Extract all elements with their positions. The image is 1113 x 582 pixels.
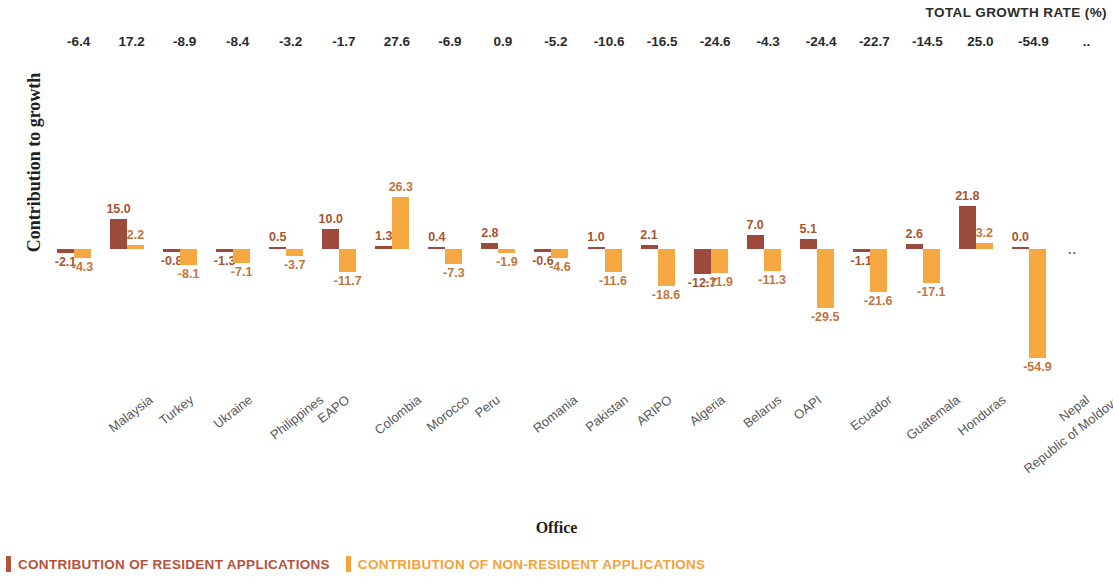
bar-value-label: -11.3: [749, 273, 795, 287]
bar-value-label: -8.1: [166, 267, 212, 281]
bar-non-resident-contribution[interactable]: [658, 249, 675, 286]
bar-resident-contribution[interactable]: [375, 246, 392, 249]
legend-label: CONTRIBUTION OF RESIDENT APPLICATIONS: [18, 557, 330, 572]
bar-value-label: -11.7: [325, 274, 371, 288]
bar-value-label: -29.5: [802, 310, 848, 324]
total-growth-rate-value: -16.5: [636, 34, 689, 49]
bar-group: 15.02.2: [105, 60, 158, 390]
x-tick-label: Ecuador: [847, 392, 894, 434]
bar-resident-contribution[interactable]: [800, 239, 817, 249]
bar-value-label: -4.6: [537, 260, 583, 274]
bar-resident-contribution[interactable]: [322, 229, 339, 249]
legend-swatch-icon: [6, 556, 11, 572]
bar-value-label: 7.0: [732, 218, 778, 232]
bar-non-resident-contribution[interactable]: [392, 197, 409, 249]
bar-non-resident-contribution[interactable]: [74, 249, 91, 258]
total-growth-rate-value: 0.9: [476, 34, 529, 49]
bar-value-label: 15.0: [96, 202, 142, 216]
bar-group: 2.8-1.9: [476, 60, 529, 390]
total-growth-rate-value: -54.9: [1007, 34, 1060, 49]
total-growth-rate-value: -4.3: [742, 34, 795, 49]
bar-resident-contribution[interactable]: [694, 249, 711, 274]
x-tick-label: Guatemala: [904, 392, 963, 443]
bar-value-label: 0.5: [255, 230, 301, 244]
bar-non-resident-contribution[interactable]: [445, 249, 462, 264]
bar-resident-contribution[interactable]: [481, 243, 498, 249]
total-growth-rate-value: -24.4: [795, 34, 848, 49]
x-axis-tick-labels: MalaysiaTurkeyUkrainePhilippinesEAPOColo…: [52, 392, 1113, 512]
bar-resident-contribution[interactable]: [1012, 247, 1029, 250]
bar-value-label: -4.3: [60, 260, 106, 274]
bar-non-resident-contribution[interactable]: [976, 243, 993, 249]
x-tick-label: Algeria: [687, 392, 728, 429]
bar-non-resident-contribution[interactable]: [339, 249, 356, 272]
bar-group: -1.1-21.6: [848, 60, 901, 390]
legend-item[interactable]: CONTRIBUTION OF NON-RESIDENT APPLICATION…: [346, 556, 706, 572]
bar-value-label: -17.1: [908, 285, 954, 299]
bar-group: 2.1-18.6: [636, 60, 689, 390]
bar-value-label: 0.0: [997, 230, 1043, 244]
bar-non-resident-contribution[interactable]: [498, 249, 515, 253]
bar-non-resident-contribution[interactable]: [551, 249, 568, 258]
bar-value-label: 26.3: [378, 180, 424, 194]
x-tick-label: Peru: [472, 392, 503, 421]
bar-group: 0.4-7.3: [423, 60, 476, 390]
bar-non-resident-contribution[interactable]: [711, 249, 728, 273]
total-growth-rate-value: -10.6: [583, 34, 636, 49]
bar-group: ..: [1060, 60, 1113, 390]
bar-non-resident-contribution[interactable]: [286, 249, 303, 256]
bar-resident-contribution[interactable]: [163, 249, 180, 252]
total-growth-rate-header: TOTAL GROWTH RATE (%): [926, 5, 1107, 20]
chart-root: TOTAL GROWTH RATE (%) -6.417.2-8.9-8.4-3…: [0, 0, 1113, 582]
bar-non-resident-contribution[interactable]: [605, 249, 622, 272]
bar-resident-contribution[interactable]: [588, 247, 605, 250]
bar-value-label: -11.9: [696, 275, 742, 289]
bar-non-resident-contribution[interactable]: [817, 249, 834, 308]
bar-value-label: -21.6: [855, 294, 901, 308]
bar-group: -1.3-7.1: [211, 60, 264, 390]
x-tick-label: Ukraine: [210, 392, 255, 431]
bar-value-label: 1.0: [573, 230, 619, 244]
legend-item[interactable]: CONTRIBUTION OF RESIDENT APPLICATIONS: [6, 556, 330, 572]
x-tick-label: Honduras: [955, 392, 1009, 439]
total-growth-rate-value: 27.6: [370, 34, 423, 49]
total-growth-rate-value: 17.2: [105, 34, 158, 49]
y-axis-title: Contribution to growth: [24, 53, 45, 273]
bar-non-resident-contribution[interactable]: [233, 249, 250, 263]
bar-resident-contribution[interactable]: [534, 249, 551, 252]
bar-group: 21.83.2: [954, 60, 1007, 390]
total-growth-rate-value: -5.2: [529, 34, 582, 49]
x-tick-label: Morocco: [423, 392, 472, 435]
bar-resident-contribution[interactable]: [57, 249, 74, 253]
bar-value-label: -7.3: [431, 266, 477, 280]
bar-resident-contribution[interactable]: [216, 249, 233, 252]
bar-resident-contribution[interactable]: [269, 247, 286, 250]
total-growth-rate-value: -6.4: [52, 34, 105, 49]
bar-resident-contribution[interactable]: [641, 245, 658, 249]
bar-group: 10.0-11.7: [317, 60, 370, 390]
total-growth-rate-row: -6.417.2-8.9-8.4-3.2-1.727.6-6.90.9-5.2-…: [52, 34, 1113, 56]
no-data-marker: ..: [1068, 242, 1077, 257]
bar-resident-contribution[interactable]: [428, 247, 445, 250]
bar-group: -0.8-8.1: [158, 60, 211, 390]
x-tick-label: Colombia: [371, 392, 424, 438]
bar-resident-contribution[interactable]: [853, 249, 870, 252]
bar-non-resident-contribution[interactable]: [180, 249, 197, 265]
bar-resident-contribution[interactable]: [747, 235, 764, 249]
bar-value-label: 0.4: [414, 230, 460, 244]
x-tick-label: ARIPO: [634, 392, 675, 429]
total-growth-rate-value: -6.9: [423, 34, 476, 49]
x-tick-label: Malaysia: [105, 392, 155, 435]
bar-non-resident-contribution[interactable]: [870, 249, 887, 292]
bar-resident-contribution[interactable]: [906, 244, 923, 249]
bar-value-label: 2.1: [626, 228, 672, 242]
bar-group: 2.6-17.1: [901, 60, 954, 390]
bar-non-resident-contribution[interactable]: [923, 249, 940, 283]
bar-non-resident-contribution[interactable]: [127, 245, 144, 249]
legend-label: CONTRIBUTION OF NON-RESIDENT APPLICATION…: [358, 557, 706, 572]
x-tick-label: Romania: [530, 392, 580, 436]
x-tick-label: OAPI: [791, 392, 825, 423]
bar-non-resident-contribution[interactable]: [1029, 249, 1046, 358]
legend-swatch-icon: [346, 556, 351, 572]
bar-non-resident-contribution[interactable]: [764, 249, 781, 271]
